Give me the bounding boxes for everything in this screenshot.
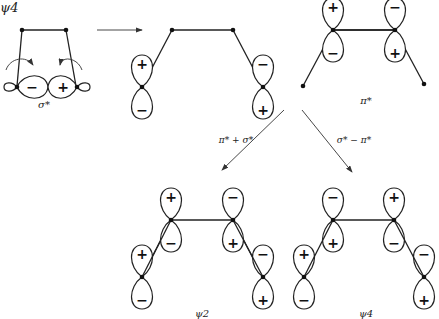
lobe-sign: +: [165, 189, 177, 205]
rotated-orbitals-panel: + − − +: [132, 28, 274, 119]
lobe-sign: −: [136, 292, 148, 308]
lobe-sign: −: [327, 45, 339, 61]
orbital-correlation-diagram: ψ4 − + σ*: [0, 0, 439, 319]
lobe-sign: +: [136, 56, 148, 72]
lobe-sign: −: [136, 102, 148, 118]
sigma-lobe-sign-left: −: [26, 79, 38, 95]
psi2-panel: + − − + + − − + ψ2: [132, 188, 274, 319]
psi2-label: ψ2: [195, 308, 209, 319]
lobe-sign: +: [327, 0, 339, 15]
lobe-sign: −: [298, 292, 310, 308]
lobe-sign: +: [298, 246, 310, 262]
lobe-sign: +: [327, 235, 339, 251]
title-label: ψ4: [0, 0, 18, 15]
lobe-sign: +: [257, 102, 269, 118]
lobe-sign: −: [257, 56, 269, 72]
sigma-star-label: σ*: [38, 99, 50, 110]
psi4-label: ψ4: [359, 308, 373, 319]
sigma-lobe-sign-right: +: [57, 79, 69, 95]
lobe-sign: +: [389, 45, 401, 61]
lobe-sign: +: [136, 246, 148, 262]
lobe-sign: +: [388, 189, 400, 205]
combine-plus-label: π* + σ*: [218, 135, 254, 145]
lobe-sign: +: [227, 235, 239, 251]
psi4-panel: − + + − + − − + ψ4: [294, 188, 435, 319]
lobe-sign: −: [389, 0, 401, 15]
lobe-sign: −: [227, 189, 239, 205]
lobe-sign: −: [327, 189, 339, 205]
pi-star-label: π*: [359, 95, 372, 106]
pi-star-panel: + − − + π*: [301, 0, 427, 106]
lobe-sign: −: [418, 246, 430, 262]
lobe-sign: +: [418, 292, 430, 308]
lobe-sign: −: [388, 235, 400, 251]
combine-minus-label: σ* − π*: [337, 135, 372, 145]
lobe-sign: −: [165, 235, 177, 251]
lobe-sign: −: [257, 246, 269, 262]
sigma-star-panel: − + σ*: [4, 28, 90, 110]
lobe-sign: +: [257, 292, 269, 308]
